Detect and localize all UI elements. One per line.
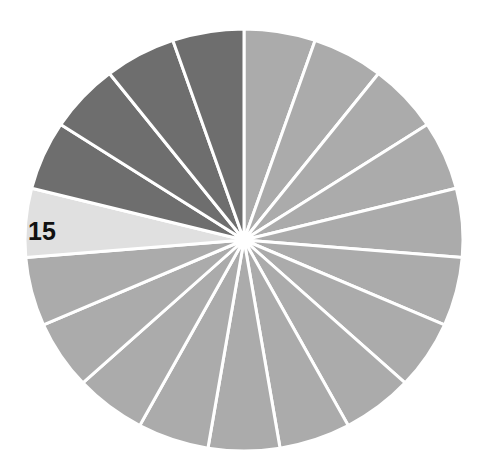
pie-labels: 15 (28, 217, 56, 245)
pie-chart-canvas: 15 (0, 0, 492, 475)
pie-slices (25, 29, 463, 451)
slice-label-15: 15 (28, 217, 56, 245)
pie-chart: 15 (0, 0, 492, 475)
